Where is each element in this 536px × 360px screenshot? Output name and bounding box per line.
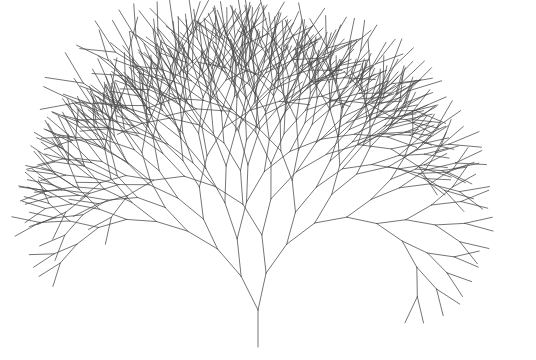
branch-segment [326,16,327,46]
branch-segment [80,127,109,128]
branch-segment [417,267,418,296]
branch-segment [280,122,281,151]
background [0,0,536,360]
fractal-tree [0,0,536,360]
fractal-tree-image: Recursive fractal tree drawn with thin g… [0,0,536,360]
